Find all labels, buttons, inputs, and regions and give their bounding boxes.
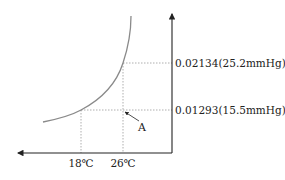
- y-label-lower: 0.01293(15.5mmHg): [175, 104, 285, 116]
- x-label-18: 18℃: [68, 157, 93, 169]
- point-a-arrow: [125, 112, 139, 121]
- saturation-curve: [43, 16, 131, 122]
- x-label-26: 26℃: [110, 157, 135, 169]
- guide-lines: [81, 63, 172, 153]
- diagram-canvas: A 0.02134(25.2mmHg) 0.01293(15.5mmHg) 18…: [0, 0, 285, 180]
- y-label-upper: 0.02134(25.2mmHg): [175, 57, 285, 69]
- point-a-label: A: [137, 121, 147, 134]
